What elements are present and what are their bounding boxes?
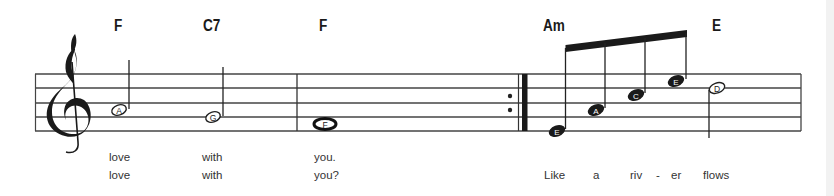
svg-text:A: A <box>116 106 122 116</box>
lyric-line2-word: a <box>593 169 599 181</box>
chord-symbol-f: F <box>114 17 122 35</box>
lyric-verse1-word: you. <box>314 151 336 163</box>
lyric-line2-hyphen: - <box>656 169 660 181</box>
chord-symbol-am: Am <box>543 17 565 35</box>
lyric-line2-word: Like <box>544 169 565 181</box>
svg-text:D: D <box>714 84 720 94</box>
note-g-half: G <box>204 67 223 124</box>
eighth-note-beam <box>566 30 688 52</box>
lyric-verse1-word: with <box>202 151 222 163</box>
note-e2-eighth: E <box>666 33 686 89</box>
chord-symbol-e: E <box>712 17 721 35</box>
note-d-half: D <box>708 81 726 138</box>
treble-clef-icon <box>47 34 91 153</box>
lyric-verse1-word: love <box>109 151 130 163</box>
note-f-whole: F <box>314 119 336 130</box>
svg-text:F: F <box>322 120 327 130</box>
chord-symbol-c7: C7 <box>203 17 220 35</box>
lyric-line2-word: er <box>671 169 681 181</box>
svg-text:E: E <box>673 78 678 87</box>
lyric-line2-word: riv <box>630 169 642 181</box>
svg-text:A: A <box>593 107 599 116</box>
chord-symbol-f: F <box>319 17 327 35</box>
staff-lines <box>35 74 801 131</box>
note-e-eighth: E <box>547 48 567 139</box>
svg-text:G: G <box>210 113 217 123</box>
sheet-music: A G F E A C <box>0 0 834 196</box>
lyric-verse2-word: love <box>109 169 130 181</box>
note-a-eighth: A <box>586 43 606 118</box>
page-edge <box>826 0 834 196</box>
lyric-verse2-word: you? <box>314 169 339 181</box>
lyric-line2-word: flows <box>703 169 729 181</box>
lyric-verse2-word: with <box>202 169 222 181</box>
svg-text:C: C <box>633 92 639 101</box>
note-c-eighth: C <box>626 38 646 103</box>
svg-text:E: E <box>554 128 559 137</box>
staff-notation: A G F E A C <box>0 0 834 196</box>
